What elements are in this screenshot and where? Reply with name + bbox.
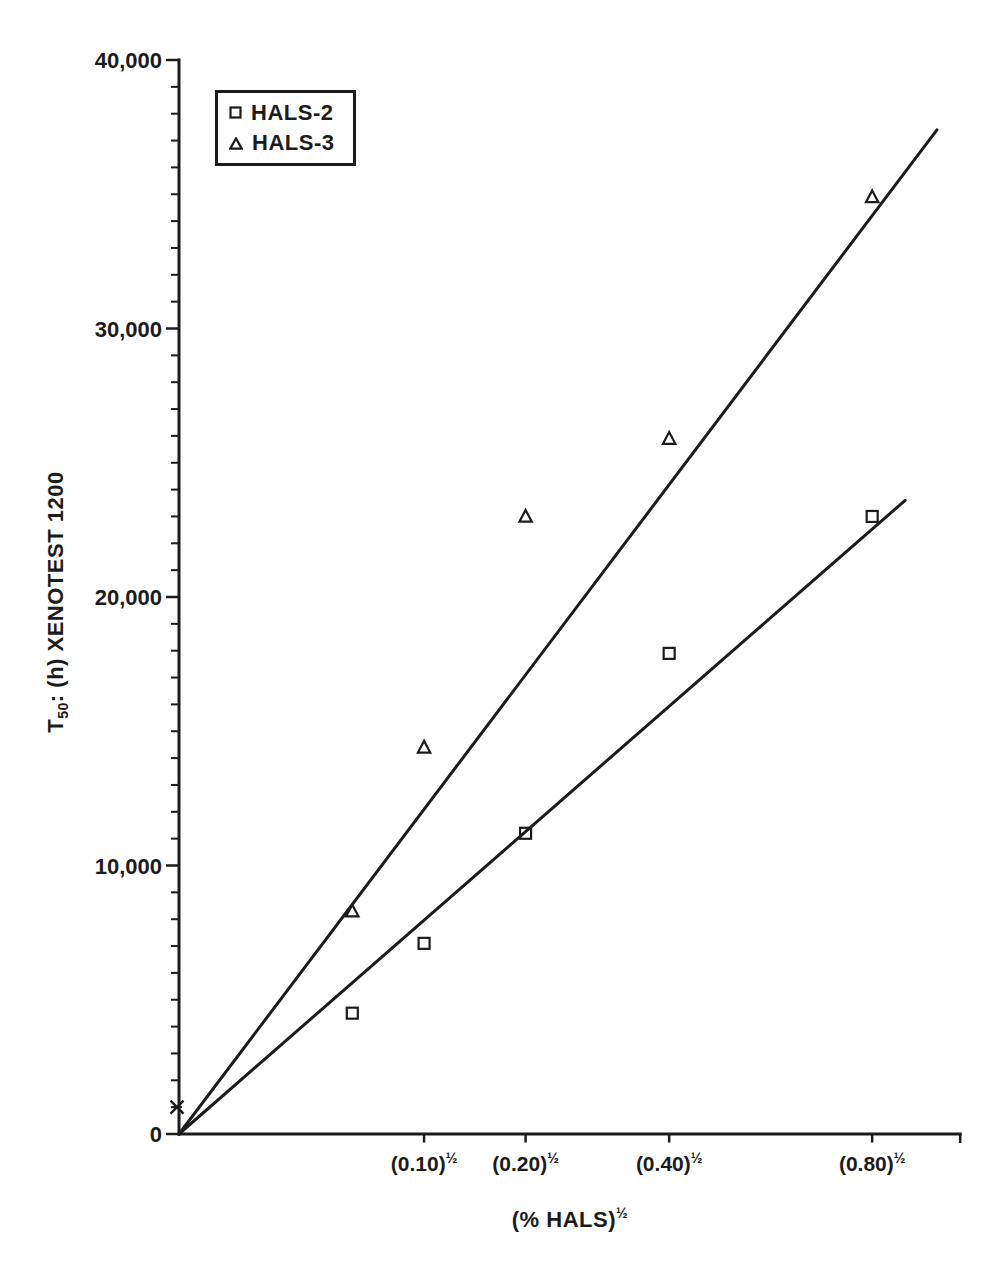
x-tick-label: (0.20)½ <box>492 1150 559 1175</box>
data-point-hals-2 <box>419 938 430 949</box>
data-point-hals-3 <box>866 190 878 202</box>
data-point-hals-2 <box>347 1008 358 1019</box>
data-point-hals-3 <box>663 432 675 444</box>
figure-scan: 010,00020,00030,00040,000(0.10)½(0.20)½(… <box>0 0 1008 1269</box>
data-points <box>171 190 879 1113</box>
y-axis-title: T50: (h) XENOTEST 1200 <box>43 471 71 732</box>
y-tick-label: 20,000 <box>95 585 162 610</box>
y-title-rest: : (h) XENOTEST 1200 <box>43 471 68 702</box>
y-tick-label: 40,000 <box>95 48 162 73</box>
fit-lines <box>179 130 937 1134</box>
legend-item-hals3: HALS-3 <box>229 132 353 154</box>
data-point-hals-3 <box>519 510 531 522</box>
legend-label-hals2: HALS-2 <box>251 102 333 124</box>
axis-ticks <box>166 60 960 1143</box>
triangle-icon <box>229 137 243 150</box>
axis-tick-labels: 010,00020,00030,00040,000(0.10)½(0.20)½(… <box>95 48 906 1175</box>
y-tick-label: 0 <box>150 1122 162 1147</box>
scatter-plot: 010,00020,00030,00040,000(0.10)½(0.20)½(… <box>0 0 1008 1269</box>
legend-label-hals3: HALS-3 <box>252 132 334 154</box>
x-tick-label: (0.80)½ <box>839 1150 906 1175</box>
axes <box>178 59 962 1136</box>
x-title-base: (% HALS) <box>512 1207 616 1232</box>
data-point-hals-3 <box>418 741 430 753</box>
data-point-hals-2 <box>867 511 878 522</box>
square-icon <box>229 106 242 119</box>
x-axis-title: (% HALS)½ <box>512 1205 628 1232</box>
y-tick-label: 10,000 <box>95 854 162 879</box>
data-point-hals-2 <box>664 648 675 659</box>
x-tick-label: (0.10)½ <box>391 1150 458 1175</box>
fit-line-hals-2 <box>179 500 905 1134</box>
y-title-prefix: T <box>43 719 68 733</box>
x-tick-label: (0.40)½ <box>636 1150 703 1175</box>
y-tick-label: 30,000 <box>95 317 162 342</box>
fit-line-hals-3 <box>179 130 937 1134</box>
data-point-hals-3 <box>346 905 358 917</box>
y-title-subscript: 50 <box>55 702 71 719</box>
legend: HALS-2 HALS-3 <box>215 90 356 166</box>
legend-item-hals2: HALS-2 <box>229 102 353 124</box>
x-title-superscript: ½ <box>616 1205 628 1221</box>
